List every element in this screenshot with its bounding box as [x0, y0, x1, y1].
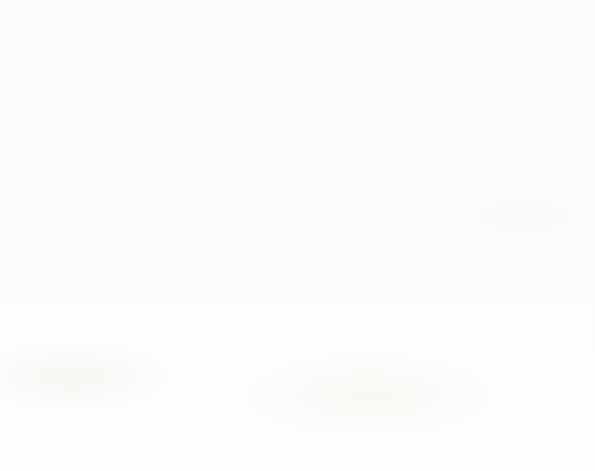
- chem-group: HOCH: [531, 373, 568, 389]
- chem-group: CHO: [319, 327, 356, 343]
- molecule-label: D-lyxose: [497, 311, 534, 321]
- molecule-label: D-gulose: [319, 460, 356, 470]
- chem-group: HOCH: [349, 247, 386, 263]
- molecule-altrose: CHOHOCHHCOHHCOHHCOHCH2OHD-altrose: [98, 327, 135, 469]
- chem-group: HOCH: [497, 247, 534, 263]
- chem-group: HCOH: [497, 270, 534, 286]
- chem-group: CHO: [148, 95, 193, 111]
- molecule-allose: CHOHCOHHCOHHCOHHCOHCH2OHD-allose: [23, 327, 60, 469]
- molecule-glyceraldehyde: CHOHCOHCH2OHD-glyceraldehyde: [263, 14, 331, 87]
- chem-group: CHO: [497, 201, 534, 217]
- molecule-name: -ribose: [67, 310, 94, 320]
- molecule-label: D-arabinose: [199, 311, 245, 321]
- molecule-name: -arabinose: [205, 310, 245, 320]
- chem-group: CHO: [413, 95, 450, 111]
- chem-group: CHO: [59, 201, 96, 217]
- chem-group: CHO: [98, 327, 135, 343]
- chem-group: HOCH: [319, 396, 356, 412]
- molecule-label: D-threose: [413, 182, 450, 192]
- chem-group: CH2OH: [98, 442, 135, 458]
- chem-group: CHO: [23, 327, 60, 343]
- molecule-name: -lyxose: [505, 310, 533, 320]
- molecule-lyxose: CHOHOCHHOCHHCOHCH2OHD-lyxose: [497, 201, 534, 320]
- chem-group: CH2OH: [241, 442, 284, 458]
- chem-group: HCOH: [23, 419, 60, 435]
- chem-group: HCOH: [349, 270, 386, 286]
- molecule-name: -allose: [32, 459, 58, 469]
- molecule-galactose: CHOHCOHHOCHHOCHHCOHCH2OHD-galactose: [456, 327, 501, 469]
- chem-group: HCOH: [413, 141, 450, 157]
- chem-group: CHO: [385, 327, 422, 343]
- molecule-arabinose: CHOHOCHHCOHHCOHCH2OHD-arabinose: [199, 201, 245, 320]
- chem-group: CH2OH: [497, 293, 534, 309]
- molecule-ribose: CHOHCOHHCOHHCOHCH2OHD-ribose: [59, 201, 96, 320]
- molecule-label: D-xylose: [349, 311, 386, 321]
- chem-group: HOCH: [241, 350, 284, 366]
- chem-group: HCOH: [59, 270, 96, 286]
- chem-group: CH2OH: [199, 293, 245, 309]
- molecule-name: -glucose: [175, 459, 208, 469]
- chem-group: HCOH: [319, 350, 356, 366]
- chem-group: HCOH: [98, 419, 135, 435]
- molecule-glucose: CHOHCOHHOCHHCOHHCOHCH2OHD-glucose: [169, 327, 207, 469]
- chem-group: HCOH: [23, 350, 60, 366]
- chem-group: CH2OH: [319, 442, 356, 458]
- molecule-label: D-ribose: [59, 311, 96, 321]
- molecule-label: D-erythrose: [148, 182, 193, 192]
- chem-group: HOCH: [456, 373, 501, 389]
- chem-group: CH2OH: [169, 442, 207, 458]
- chem-group: HCOH: [59, 247, 96, 263]
- chem-group: HCOH: [148, 141, 193, 157]
- molecule-erythrose: CHOHCOHHCOHCH2OHD-erythrose: [148, 95, 193, 191]
- chem-group: HOCH: [98, 350, 135, 366]
- chem-group: HOCH: [385, 350, 422, 366]
- chem-group: CHO: [169, 327, 207, 343]
- chem-group: HOCH: [456, 396, 501, 412]
- chem-group: CHO: [241, 327, 284, 343]
- chem-group: HOCH: [241, 373, 284, 389]
- chem-group: CH2OH: [59, 293, 96, 309]
- molecule-mannose: CHOHOCHHOCHHCOHHCOHCH2OHD-mannose: [241, 327, 284, 469]
- molecule-idose: CHOHOCHHCOHHOCHHCOHCH2OHD-idose: [385, 327, 422, 469]
- molecule-xylose: CHOHCOHHOCHHCOHCH2OHD-xylose: [349, 201, 386, 320]
- chem-group: CHO: [199, 201, 245, 217]
- chem-group: HCOH: [98, 396, 135, 412]
- chem-group: CH2OH: [148, 164, 193, 180]
- chem-group: HOCH: [497, 224, 534, 240]
- chem-group: HCOH: [23, 396, 60, 412]
- chem-group: CHO: [263, 14, 331, 30]
- chem-group: CHO: [456, 327, 501, 343]
- chem-group: CH2OH: [385, 442, 422, 458]
- chem-group: HCOH: [456, 419, 501, 435]
- chem-group: CH2OH: [263, 60, 331, 76]
- molecule-name: -gulose: [327, 459, 355, 469]
- chem-group: HOCH: [169, 373, 207, 389]
- chem-group: CH2OH: [413, 164, 450, 180]
- molecule-talose: CHOHOCHHOCHHOCHHCOHCH2OHD-talose: [531, 327, 568, 469]
- chem-group: HCOH: [199, 247, 245, 263]
- molecule-label: D-allose: [23, 460, 60, 470]
- chem-group: HOCH: [199, 224, 245, 240]
- chem-group: HCOH: [263, 37, 331, 53]
- chem-group: HCOH: [169, 350, 207, 366]
- chem-group: HOCH: [531, 350, 568, 366]
- chem-group: HCOH: [169, 419, 207, 435]
- molecule-name: -xylose: [357, 310, 385, 320]
- chem-group: HCOH: [241, 396, 284, 412]
- molecule-label: D-mannose: [241, 460, 284, 470]
- chem-group: HCOH: [319, 373, 356, 389]
- molecule-name: -altrose: [105, 459, 134, 469]
- molecule-gulose: CHOHCOHHCOHHOCHHCOHCH2OHD-gulose: [319, 327, 356, 469]
- chem-group: CHO: [349, 201, 386, 217]
- chem-group: HCOH: [385, 419, 422, 435]
- molecule-name: -mannose: [246, 459, 283, 469]
- chem-group: HOCH: [413, 118, 450, 134]
- chem-group: CH2OH: [531, 442, 568, 458]
- chem-group: HCOH: [241, 419, 284, 435]
- molecule-label: D-glucose: [169, 460, 207, 470]
- molecule-threose: CHOHOCHHCOHCH2OHD-threose: [413, 95, 450, 191]
- chem-group: HCOH: [98, 373, 135, 389]
- molecule-name: -erythrose: [153, 181, 192, 191]
- chem-group: HCOH: [199, 270, 245, 286]
- molecule-label: D-talose: [531, 460, 568, 470]
